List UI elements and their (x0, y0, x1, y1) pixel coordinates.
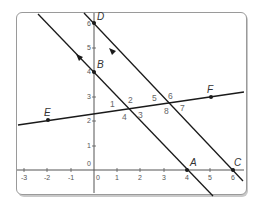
angle-label-5: 5 (152, 93, 157, 103)
y-tick-label: 3 (87, 93, 91, 100)
y-tick-labels: 0 1 2 3 4 5 6 (87, 20, 91, 167)
y-tick-label: 6 (87, 20, 91, 27)
point-c-dot (231, 168, 235, 172)
x-tick-label: 4 (185, 174, 189, 181)
x-tick-label: -3 (21, 174, 27, 181)
x-tick-label: 0 (96, 174, 100, 181)
parallel-arrow-icon (109, 48, 116, 55)
x-tick-label: -1 (68, 174, 74, 181)
point-a-label: A (189, 157, 197, 168)
point-e-label: E (44, 107, 51, 118)
line-dc (84, 13, 243, 181)
point-a-dot (185, 168, 189, 172)
diagram-stage: -3 -2 -1 0 1 2 3 4 5 6 0 1 2 3 4 5 6 (0, 0, 260, 206)
point-c-label: C (234, 157, 242, 168)
angle-label-8: 8 (164, 106, 169, 116)
point-f-dot (209, 95, 213, 99)
x-tick-label: 3 (162, 174, 166, 181)
x-tick-label: 1 (115, 174, 119, 181)
x-tick-label: 6 (231, 174, 235, 181)
angle-label-3: 3 (138, 110, 143, 120)
angle-label-6: 6 (168, 91, 173, 101)
y-tick-label: 2 (87, 117, 91, 124)
point-b-label: B (97, 59, 104, 70)
y-tick-label: 5 (87, 44, 91, 51)
x-tick-label: -2 (44, 174, 50, 181)
point-b-dot (92, 70, 96, 74)
angle-label-7: 7 (180, 103, 185, 113)
point-f-label: F (207, 84, 214, 95)
x-tick-label: 2 (138, 174, 142, 181)
x-tick-label: 5 (208, 174, 212, 181)
coordinate-plane: -3 -2 -1 0 1 2 3 4 5 6 0 1 2 3 4 5 6 (0, 0, 260, 206)
point-e-dot (46, 118, 50, 122)
angle-label-1: 1 (110, 99, 115, 109)
x-tick-labels: -3 -2 -1 0 1 2 3 4 5 6 (21, 174, 235, 181)
point-d-dot (92, 21, 96, 25)
y-tick-label: 1 (87, 142, 91, 149)
angle-label-2: 2 (128, 95, 133, 105)
y-tick-label: 0 (87, 160, 91, 167)
angle-label-4: 4 (122, 112, 127, 122)
point-d-label: D (97, 11, 104, 22)
